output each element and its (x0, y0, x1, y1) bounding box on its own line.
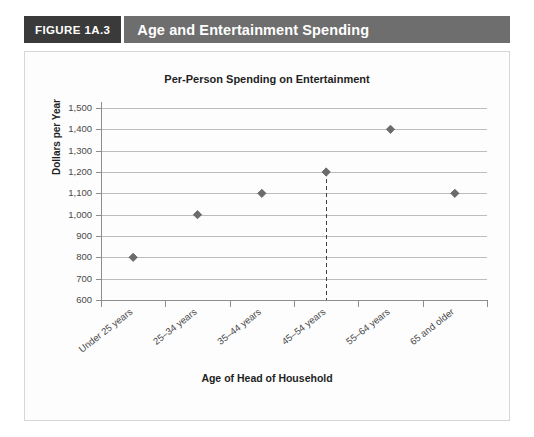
x-tick-label: 65 and older (408, 306, 456, 347)
figure-root: FIGURE 1A.3 Age and Entertainment Spendi… (0, 0, 534, 437)
x-tick-label: 55–64 years (344, 306, 392, 347)
gridlines (101, 109, 487, 301)
axis-lines (101, 102, 487, 301)
scatter-chart: 6007008009001,0001,1001,2001,3001,4001,5… (25, 52, 511, 422)
x-tick-label: 25–34 years (151, 306, 199, 347)
plot-area: 6007008009001,0001,1001,2001,3001,4001,5… (25, 52, 511, 422)
y-axis-ticks (96, 109, 101, 301)
x-tick-label: 45–54 years (279, 306, 327, 347)
x-tick-label: Under 25 years (76, 306, 134, 355)
y-tick-label: 1,100 (68, 187, 92, 198)
figure-number-tag: FIGURE 1A.3 (24, 16, 121, 43)
y-tick-label: 1,200 (68, 166, 92, 177)
y-tick-label: 1,400 (68, 123, 92, 134)
data-point-marker (451, 189, 459, 197)
y-tick-label: 1,000 (68, 209, 92, 220)
data-point-marker (322, 168, 330, 176)
x-tick-label: 35–44 years (215, 306, 263, 347)
data-point-marker (129, 253, 137, 261)
figure-title: Age and Entertainment Spending (124, 16, 510, 43)
data-point-marker (386, 125, 394, 133)
y-tick-label: 800 (76, 251, 92, 262)
y-tick-label: 1,300 (68, 145, 92, 156)
y-tick-label: 700 (76, 273, 92, 284)
figure-panel: Per-Person Spending on Entertainment Dol… (24, 51, 510, 421)
y-tick-label: 1,500 (68, 102, 92, 113)
y-axis-tick-labels: 6007008009001,0001,1001,2001,3001,4001,5… (68, 102, 92, 305)
data-point-marker (193, 210, 201, 218)
y-tick-label: 600 (76, 294, 92, 305)
data-point-marker (258, 189, 266, 197)
x-axis-tick-labels: Under 25 years25–34 years35–44 years45–5… (76, 306, 456, 355)
figure-header: FIGURE 1A.3 Age and Entertainment Spendi… (24, 16, 510, 43)
y-tick-label: 900 (76, 230, 92, 241)
